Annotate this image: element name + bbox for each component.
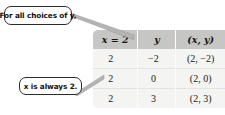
column-header-y: y — [138, 30, 176, 49]
cell-y: 0 — [138, 69, 176, 89]
cell-xy: (2, 0) — [176, 69, 225, 89]
table-row: 2 3 (2, 3) — [93, 89, 225, 109]
callout-always-label: x is always 2. — [24, 82, 78, 91]
callout-for-all-choices: For all choices of y, — [4, 6, 72, 25]
callout-x-is-always-2: x is always 2. — [19, 77, 82, 95]
cell-x: 2 — [93, 49, 138, 69]
callout-choices-label: For all choices of y, — [0, 11, 77, 20]
cell-xy: (2, −2) — [176, 49, 225, 69]
table-body: 2 −2 (2, −2) 2 0 (2, 0) 2 3 (2, 3) — [93, 49, 225, 108]
cell-xy: (2, 3) — [176, 89, 225, 109]
figure-container: For all choices of y, x is always 2. x =… — [0, 0, 225, 115]
table-row: 2 0 (2, 0) — [93, 69, 225, 89]
cell-y: −2 — [138, 49, 176, 69]
table-row: 2 −2 (2, −2) — [93, 49, 225, 69]
column-header-xy: (x, y) — [176, 30, 225, 49]
cell-y: 3 — [138, 89, 176, 109]
